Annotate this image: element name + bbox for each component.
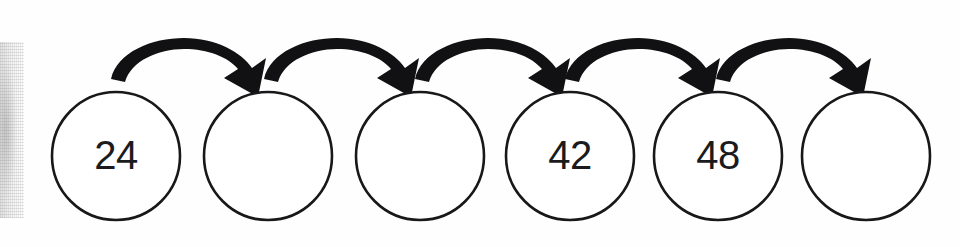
sequence-arrow-2 [264,38,419,97]
sequence-node-1-value: 24 [94,133,138,177]
arrow-group [111,38,871,97]
sequence-arrow-5 [716,38,871,97]
sequence-node-6[interactable] [802,92,930,220]
node-group [52,92,930,220]
sequence-node-3[interactable] [356,92,484,220]
sequence-arrow-4 [565,38,720,97]
sequence-node-2[interactable] [204,92,332,220]
sequence-node-4-value: 42 [548,133,592,177]
sequence-arrow-1 [111,38,266,97]
worksheet-canvas: 24 42 48 [0,0,960,247]
number-sequence-diagram: 24 42 48 [0,0,960,247]
sequence-node-5-value: 48 [696,133,740,177]
sequence-arrow-3 [415,38,570,97]
